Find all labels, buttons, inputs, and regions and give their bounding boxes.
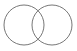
venn-diagram xyxy=(0,0,77,51)
right-circle xyxy=(32,5,72,45)
